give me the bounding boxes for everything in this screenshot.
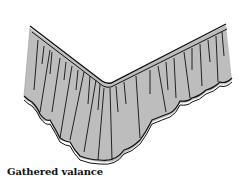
caption: Gathered valance [7, 166, 103, 177]
valance-drawing [0, 0, 250, 185]
valance-illustration: Gathered valance [0, 0, 250, 185]
